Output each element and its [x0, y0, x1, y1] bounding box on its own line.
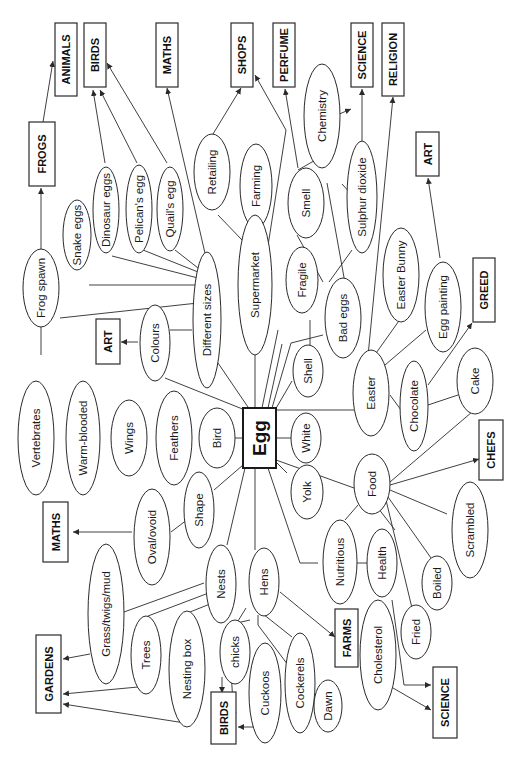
node-cholesterol: Cholesterol [360, 600, 396, 710]
subject-animals: ANIMALS [55, 23, 77, 96]
subject-farms: FARMS [335, 609, 358, 667]
svg-text:Nesting box: Nesting box [181, 638, 193, 699]
subject-gardens: GARDENS [36, 635, 61, 713]
svg-text:Colours: Colours [149, 323, 161, 363]
node-pelicans-egg: Pelican's egg [126, 165, 152, 253]
node-wings: Wings [111, 400, 147, 476]
svg-text:Nutritious: Nutritious [334, 537, 346, 586]
node-warm-blooded: Warm-blooded [66, 381, 100, 495]
node-dawn: Dawn [314, 680, 342, 732]
svg-text:Retailing: Retailing [206, 150, 218, 195]
svg-text:Different sizes: Different sizes [201, 283, 213, 356]
node-supermarket: Supermarket [238, 215, 272, 355]
node-frog-spawn: Frog spawn [23, 249, 59, 327]
subject-frogs: FROGS [29, 122, 55, 186]
node-cake: Cake [457, 348, 493, 414]
svg-text:Cake: Cake [469, 368, 481, 395]
node-trees: Trees [131, 616, 161, 694]
node-vertebrates: Vertebrates [18, 381, 54, 495]
svg-text:Cockerels: Cockerels [294, 657, 306, 708]
svg-text:SCIENCE: SCIENCE [439, 678, 451, 727]
subject-shops: SHOPS [231, 23, 253, 87]
svg-text:Chocolate: Chocolate [408, 380, 420, 432]
subject-greed: GREED [473, 258, 495, 322]
svg-text:Frog spawn: Frog spawn [35, 258, 47, 318]
node-scrambled: Scrambled [452, 482, 488, 578]
node-easter-bunny: Easter Bunny [383, 228, 419, 322]
subject-science-top: SCIENCE [351, 23, 373, 87]
svg-text:BIRDS: BIRDS [89, 38, 101, 72]
node-fragile: Fragile [286, 247, 318, 313]
svg-text:MATHS: MATHS [50, 513, 62, 551]
svg-text:Easter Bunny: Easter Bunny [395, 240, 407, 309]
svg-text:Shape: Shape [193, 493, 205, 526]
svg-text:ART: ART [102, 330, 114, 353]
node-fried: Fried [401, 605, 431, 659]
svg-text:Cuckoos: Cuckoos [259, 670, 271, 715]
svg-text:Dawn: Dawn [322, 691, 334, 720]
svg-text:Food: Food [366, 471, 378, 497]
node-feathers: Feathers [156, 391, 192, 485]
subject-maths-top: MATHS [156, 23, 178, 87]
svg-text:Trees: Trees [140, 640, 152, 669]
svg-text:SHOPS: SHOPS [236, 36, 248, 75]
node-egg-painting: Egg painting [425, 262, 461, 352]
svg-text:Snake eggs: Snake eggs [71, 204, 83, 265]
svg-text:CHEFS: CHEFS [485, 431, 497, 468]
svg-text:Dinosaur eggs: Dinosaur eggs [100, 173, 112, 247]
svg-text:SCIENCE: SCIENCE [356, 31, 368, 80]
node-smell: Smell [288, 168, 324, 238]
node-shell: Shell [293, 345, 323, 397]
svg-text:GREED: GREED [478, 270, 490, 309]
node-snake-eggs: Snake eggs [63, 200, 91, 270]
svg-text:Oval/ovoid: Oval/ovoid [146, 510, 158, 564]
node-nesting-box: Nesting box [169, 611, 205, 727]
subject-art-right: ART [416, 132, 439, 176]
node-easter: Easter [353, 350, 389, 436]
node-bad-eggs: Bad eggs [325, 278, 361, 358]
svg-text:Pelican's egg: Pelican's egg [133, 175, 145, 243]
svg-text:FARMS: FARMS [341, 619, 353, 658]
subject-perfume: PERFUME [273, 23, 295, 87]
svg-text:Smell: Smell [300, 189, 312, 218]
svg-text:Fragile: Fragile [296, 262, 308, 297]
subject-art-left: ART [96, 319, 120, 364]
central-node-egg: Egg [243, 408, 276, 468]
subject-birds-top: BIRDS [84, 23, 106, 87]
svg-text:Grass/twigs/mud: Grass/twigs/mud [100, 571, 112, 657]
node-bird: Bird [199, 408, 235, 468]
svg-text:Bird: Bird [211, 428, 223, 448]
svg-text:GARDENS: GARDENS [43, 646, 55, 701]
node-cuckoos: Cuckoos [249, 643, 281, 743]
svg-text:Fried: Fried [410, 619, 422, 645]
svg-text:Nests: Nests [215, 569, 227, 599]
node-different-sizes: Different sizes [193, 252, 221, 388]
svg-text:RELIGION: RELIGION [387, 33, 399, 86]
node-dinosaur-eggs: Dinosaur eggs [93, 167, 119, 253]
node-grass-twigs-mud: Grass/twigs/mud [88, 544, 124, 684]
node-white: White [291, 413, 321, 463]
svg-text:PERFUME: PERFUME [278, 28, 290, 82]
svg-text:Farming: Farming [250, 165, 262, 207]
svg-text:Chemistry: Chemistry [316, 90, 328, 142]
node-oval-ovoid: Oval/ovoid [134, 489, 170, 585]
svg-text:Supermarket: Supermarket [249, 251, 261, 318]
node-chemistry: Chemistry [304, 64, 340, 168]
node-hens: Hens [249, 548, 279, 616]
node-food: Food [354, 454, 390, 514]
node-retailing: Retailing [194, 134, 230, 210]
subject-religion: RELIGION [382, 23, 404, 96]
svg-text:ANIMALS: ANIMALS [60, 34, 72, 84]
subject-birds-bottom: BIRDS [211, 692, 236, 744]
svg-text:Health: Health [376, 546, 388, 579]
svg-text:Egg: Egg [249, 420, 270, 456]
svg-text:BIRDS: BIRDS [218, 701, 230, 735]
svg-text:MATHS: MATHS [161, 36, 173, 74]
svg-text:Yolk: Yolk [301, 481, 313, 503]
subject-chefs: CHEFS [479, 420, 503, 480]
node-yolk: Yolk [291, 465, 323, 519]
svg-text:Bad eggs: Bad eggs [337, 293, 349, 342]
svg-text:ART: ART [422, 142, 434, 165]
node-nests: Nests [206, 545, 236, 623]
svg-text:Cholesterol: Cholesterol [372, 626, 384, 684]
